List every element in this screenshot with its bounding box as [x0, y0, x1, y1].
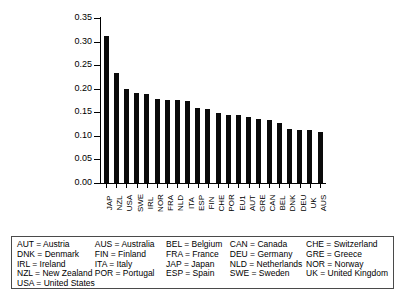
- bar-slot: [233, 18, 243, 183]
- y-axis-tick-label: 0.10: [32, 131, 92, 140]
- y-axis-tick: [94, 18, 100, 19]
- bar: [114, 73, 119, 183]
- y-axis-tick-label: 0.00: [32, 178, 92, 187]
- y-axis-tick-label: 0.25: [32, 60, 92, 69]
- y-axis-tick: [94, 42, 100, 43]
- x-axis-tick: [289, 184, 290, 188]
- x-axis-tick-label: AUS: [320, 195, 328, 211]
- x-axis-tick: [238, 184, 239, 188]
- bar-slot: [264, 18, 274, 183]
- bar-slot: [172, 18, 182, 183]
- bar: [205, 109, 210, 183]
- x-axis-tick: [157, 184, 158, 188]
- bar-slot: [152, 18, 162, 183]
- bar: [195, 108, 200, 183]
- x-label-slot: FIN: [203, 189, 213, 229]
- x-axis-tick: [167, 184, 168, 188]
- x-label-slot: DNK: [284, 189, 294, 229]
- bar: [287, 129, 292, 183]
- bar-slot: [315, 18, 325, 183]
- bar: [297, 130, 302, 183]
- bar-slot: [203, 18, 213, 183]
- bar-chart-figure: 0.350.300.250.200.150.100.050.00 JAPNZLU…: [0, 0, 407, 232]
- y-axis-tick-label: 0.05: [32, 154, 92, 163]
- x-axis-tick: [147, 184, 148, 188]
- x-axis-tick: [208, 184, 209, 188]
- y-axis-tick-label: 0.20: [32, 84, 92, 93]
- x-label-slot: BEL: [274, 189, 284, 229]
- legend-entry: USA = United States: [17, 279, 95, 289]
- bar-slot: [121, 18, 131, 183]
- y-axis-tick-label: 0.30: [32, 37, 92, 46]
- x-label-slot: NOR: [152, 189, 162, 229]
- abbreviation-legend-box: AUT = AustriaDNK = DenmarkIRL = IrelandN…: [11, 236, 394, 289]
- x-axis-tick: [269, 184, 270, 188]
- legend-entry: POR = Portugal: [95, 269, 166, 279]
- bar: [246, 117, 251, 183]
- legend-column: CAN = CanadaDEU = GermanyNLD = Netherlan…: [230, 240, 306, 286]
- x-label-slot: NLD: [172, 189, 182, 229]
- bar-slot: [142, 18, 152, 183]
- bar-slot: [111, 18, 121, 183]
- x-axis-tick: [300, 184, 301, 188]
- x-axis-tick: [259, 184, 260, 188]
- x-label-slot: JAP: [101, 189, 111, 229]
- legend-entry: ESP = Spain: [166, 269, 230, 279]
- bar-slot: [213, 18, 223, 183]
- bar-slot: [284, 18, 294, 183]
- bar-series: [101, 18, 325, 183]
- y-axis-tick: [94, 65, 100, 66]
- x-label-slot: GRE: [254, 189, 264, 229]
- x-axis-line: [100, 183, 326, 184]
- x-label-slot: ITA: [183, 189, 193, 229]
- legend-grid: AUT = AustriaDNK = DenmarkIRL = IrelandN…: [17, 240, 388, 286]
- x-label-slot: DEU: [295, 189, 305, 229]
- x-label-slot: CAN: [264, 189, 274, 229]
- bar-slot: [244, 18, 254, 183]
- bar: [165, 100, 170, 183]
- x-axis-tick: [228, 184, 229, 188]
- bar: [318, 132, 323, 183]
- bar: [185, 101, 190, 184]
- bar: [134, 93, 139, 183]
- x-label-slot: POR: [223, 189, 233, 229]
- y-axis-tick: [94, 159, 100, 160]
- x-axis-tick: [116, 184, 117, 188]
- bar: [124, 89, 129, 183]
- x-label-slot: AUT: [244, 189, 254, 229]
- bar-slot: [193, 18, 203, 183]
- y-axis-tick: [94, 136, 100, 137]
- y-axis-tick-labels: 0.350.300.250.200.150.100.050.00: [28, 0, 92, 232]
- y-axis-tick-label: 0.15: [32, 107, 92, 116]
- legend-column: BEL = BelgiumFRA = FranceJAP = JapanESP …: [166, 240, 230, 286]
- x-label-slot: ESP: [193, 189, 203, 229]
- bar: [236, 115, 241, 183]
- y-axis-tick: [94, 89, 100, 90]
- bar: [216, 113, 221, 183]
- bar-slot: [274, 18, 284, 183]
- x-label-slot: SWE: [132, 189, 142, 229]
- bar-slot: [254, 18, 264, 183]
- x-axis-tick-labels: JAPNZLUSASWEIRLNORFRANLDITAESPFINCHEPORE…: [101, 189, 325, 229]
- x-label-slot: FRA: [162, 189, 172, 229]
- y-axis-tick: [94, 112, 100, 113]
- bar: [277, 123, 282, 183]
- x-axis-tick: [249, 184, 250, 188]
- x-label-slot: EU1: [233, 189, 243, 229]
- bar: [104, 36, 109, 183]
- y-axis-tick: [94, 183, 100, 184]
- bar: [175, 100, 180, 183]
- x-axis-tick: [218, 184, 219, 188]
- bar-slot: [305, 18, 315, 183]
- x-label-slot: IRL: [142, 189, 152, 229]
- x-axis-tick: [188, 184, 189, 188]
- x-axis-tick: [310, 184, 311, 188]
- bar-slot: [101, 18, 111, 183]
- bar-slot: [132, 18, 142, 183]
- bar-slot: [162, 18, 172, 183]
- bar: [144, 94, 149, 183]
- legend-column: AUS = AustraliaFIN = FinlandITA = ItalyP…: [95, 240, 166, 286]
- x-axis-tick: [137, 184, 138, 188]
- x-axis-tick: [126, 184, 127, 188]
- x-axis-tick: [279, 184, 280, 188]
